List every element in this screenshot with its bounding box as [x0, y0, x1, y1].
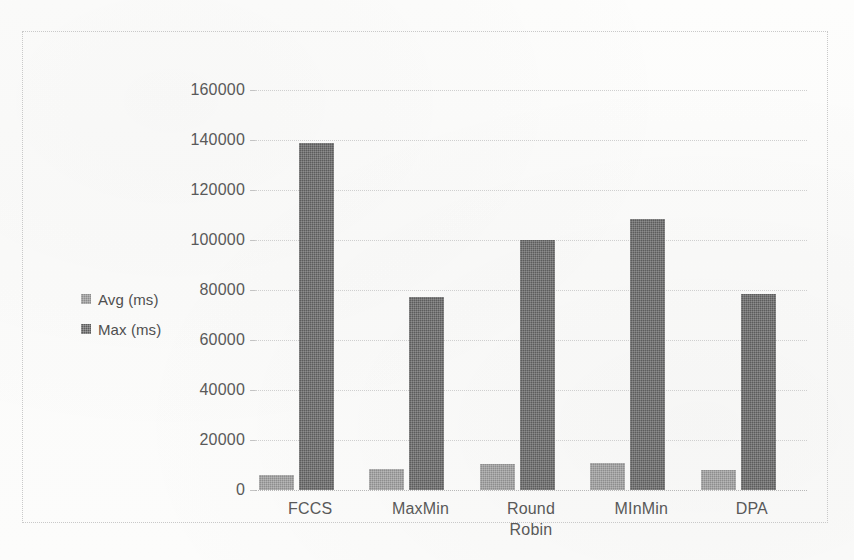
chart-frame: Avg (ms) Max (ms) 1600001400001200001000… [22, 31, 828, 523]
bar-avg[interactable] [480, 464, 515, 490]
y-tick-mark [250, 490, 255, 491]
bar-group [586, 90, 696, 490]
bar-group [365, 90, 475, 490]
gridline [255, 490, 807, 491]
x-axis: FCCSMaxMinRoundRobinMInMinDPA [255, 498, 807, 558]
legend-swatch-avg-icon [81, 294, 91, 304]
y-tick-label: 60000 [125, 331, 245, 349]
x-tick-label-line: DPA [692, 498, 812, 519]
bar-max[interactable] [741, 294, 776, 490]
x-tick-label: MaxMin [361, 498, 481, 519]
y-tick-label: 20000 [125, 431, 245, 449]
x-tick-label: FCCS [250, 498, 370, 519]
y-tick-label: 40000 [125, 381, 245, 399]
y-tick-label: 80000 [125, 281, 245, 299]
x-tick-label: DPA [692, 498, 812, 519]
y-tick-label: 0 [125, 481, 245, 499]
bar-group [697, 90, 807, 490]
x-tick-label-line: FCCS [250, 498, 370, 519]
x-tick-label-line: Round [471, 498, 591, 519]
y-tick-label: 160000 [125, 81, 245, 99]
legend-swatch-max-icon [81, 324, 91, 334]
bar-max[interactable] [520, 240, 555, 490]
bar-avg[interactable] [590, 463, 625, 490]
x-tick-label-line: MInMin [581, 498, 701, 519]
x-tick-label-line: MaxMin [361, 498, 481, 519]
y-tick-label: 140000 [125, 131, 245, 149]
bar-avg[interactable] [369, 469, 404, 490]
bar-max[interactable] [630, 219, 665, 490]
bar-group [255, 90, 365, 490]
bar-max[interactable] [299, 143, 334, 491]
bar-max[interactable] [409, 297, 444, 490]
x-tick-label: MInMin [581, 498, 701, 519]
plot-area: 1600001400001200001000008000060000400002… [255, 90, 807, 490]
bar-avg[interactable] [701, 470, 736, 491]
bars-container [255, 90, 807, 490]
y-tick-label: 120000 [125, 181, 245, 199]
y-tick-label: 100000 [125, 231, 245, 249]
x-tick-label: RoundRobin [471, 498, 591, 540]
bar-group [476, 90, 586, 490]
bar-avg[interactable] [259, 475, 294, 490]
x-tick-label-line: Robin [471, 519, 591, 540]
